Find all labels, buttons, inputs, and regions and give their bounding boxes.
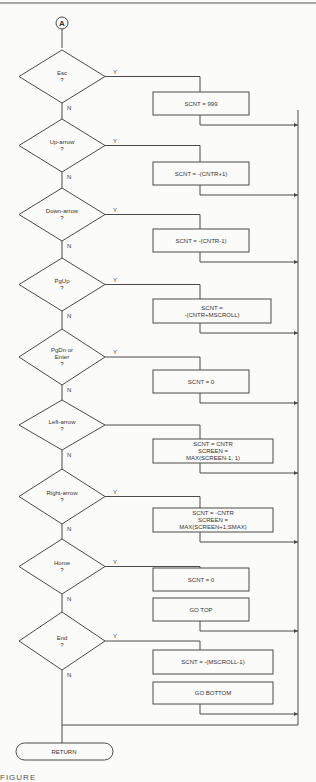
connector-a: A (56, 17, 68, 48)
decision-4: PgDn orEnter?YSCNT = 0N (19, 329, 298, 405)
yes-branch-line (105, 215, 200, 230)
merge-line (200, 185, 298, 195)
arrowhead (294, 401, 298, 405)
terminal-label: RETURN (52, 749, 77, 755)
decision-text: Left-arrow (48, 419, 76, 425)
decision-text: Enter (55, 354, 69, 360)
decision-text: End (57, 635, 68, 641)
process-text: MAX(SCREEN-1, 1) (186, 455, 240, 461)
arrowhead (294, 471, 298, 475)
process-text: SCNT = -(CNTR+1) (175, 171, 228, 177)
return-terminal: RETURN (16, 743, 113, 760)
yes-branch-line (105, 285, 200, 300)
process-text: SCNT = -(MSCROLL-1) (181, 659, 244, 665)
yes-branch-line (105, 641, 200, 650)
merge-line (200, 323, 298, 333)
merge-line (200, 463, 298, 473)
yes-label: Y (113, 207, 117, 213)
decision-text: PgDn or (51, 347, 73, 353)
arrowhead (294, 712, 298, 716)
yes-branch-line (105, 146, 200, 163)
process-text: SCNT = CNTR (193, 441, 233, 447)
process-text: SCREEN = (198, 448, 229, 454)
decision-0: Esc?YSCNT = 999N (19, 50, 298, 127)
process-text: SCNT = -(CNTR-1) (175, 238, 226, 244)
arrowhead (294, 260, 298, 264)
yes-label: Y (113, 138, 117, 144)
merge-line (200, 532, 298, 542)
process-text: SCNT = -CNTR (192, 510, 234, 516)
yes-branch-line (105, 425, 200, 439)
yes-label: Y (113, 69, 117, 75)
process-text: MAX(SCREEN+1,SMAX) (179, 524, 247, 530)
flowchart: A Esc?YSCNT = 999NUp-arrow?YSCNT = -(CNT… (0, 0, 316, 782)
no-label: N (67, 313, 71, 319)
decision-3: PgUp?YSCNT =-(CNTR+MSCROLL)N (19, 258, 298, 335)
yes-label: Y (113, 633, 117, 639)
no-label: N (67, 387, 71, 393)
yes-branch-line (105, 497, 200, 509)
merge-line (200, 252, 298, 262)
figure-caption: FIGURE (0, 773, 36, 782)
merge-line (200, 393, 298, 403)
decision-text: Home (54, 560, 71, 566)
decision-8: End?YSCNT = -(MSCROLL-1)GO BOTTOMN (19, 612, 298, 725)
arrowhead (294, 193, 298, 197)
decision-text: Esc (57, 70, 67, 76)
yes-label: Y (113, 349, 117, 355)
decision-text: PgUp (54, 278, 70, 284)
merge-line (200, 704, 298, 714)
no-label: N (67, 243, 71, 249)
arrowhead (294, 331, 298, 335)
yes-branch-line (105, 357, 200, 370)
arrowhead (294, 123, 298, 127)
decision-text: Down-arrow (46, 208, 79, 214)
yes-label: Y (113, 277, 117, 283)
process-text: SCNT = 999 (184, 101, 218, 107)
connector-label: A (59, 19, 65, 28)
yes-label: Y (113, 559, 117, 565)
no-label: N (67, 105, 71, 111)
decision-text: Up-arrow (50, 139, 75, 145)
process-text: GO TOP (189, 607, 212, 613)
process-text: SCNT = 0 (188, 577, 215, 583)
decision-6: Right-arrow?YSCNT = -CNTRSCREEN =MAX(SCR… (19, 469, 298, 544)
arrowhead (294, 629, 298, 633)
decision-text: Right-arrow (46, 490, 78, 496)
process-text: SCREEN = (198, 517, 229, 523)
yes-label: Y (113, 489, 117, 495)
no-label: N (67, 174, 71, 180)
process-text: -(CNTR+MSCROLL) (184, 312, 239, 318)
no-label: N (67, 452, 71, 458)
merge-line (200, 621, 298, 631)
arrowhead (294, 540, 298, 544)
no-label: N (67, 672, 71, 678)
decision-2: Down-arrow?YSCNT = -(CNTR-1)N (19, 188, 298, 264)
no-label: N (67, 526, 71, 532)
process-text: SCNT = (201, 305, 223, 311)
merge-line (200, 115, 298, 125)
decision-5: Left-arrow?SCNT = CNTRSCREEN =MAX(SCREEN… (19, 400, 298, 475)
no-label: N (67, 596, 71, 602)
process-text: SCNT = 0 (188, 379, 215, 385)
yes-branch-line (105, 77, 200, 93)
process-text: GO BOTTOM (195, 690, 232, 696)
decision-1: Up-arrow?YSCNT = -(CNTR+1)N (19, 119, 298, 197)
